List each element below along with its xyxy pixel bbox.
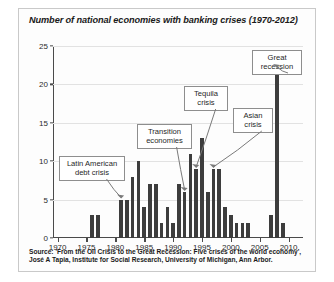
- source-line-2: José A Tapia, Institute for Social Resea…: [29, 256, 307, 265]
- x-tick-mark: [289, 238, 290, 242]
- plot-area: 0510152025 19701975198019851990199520002…: [53, 46, 303, 238]
- x-tick-mark: [144, 238, 145, 242]
- y-tick-label: 15: [39, 118, 48, 127]
- y-tick-label: 25: [39, 42, 48, 51]
- x-tick-mark: [173, 238, 174, 242]
- annotation-leader-line: [53, 46, 303, 238]
- source-line-1: Source: 'From the Oil Crisis to the Grea…: [29, 248, 307, 257]
- x-tick-mark: [231, 238, 232, 242]
- chart-figure: Number of national economies with bankin…: [18, 8, 316, 272]
- y-tick-label: 0: [44, 234, 48, 243]
- y-tick-label: 20: [39, 80, 48, 89]
- chart-title: Number of national economies with bankin…: [29, 15, 309, 25]
- x-tick-mark: [202, 238, 203, 242]
- x-tick-mark: [260, 238, 261, 242]
- y-tick-label: 5: [44, 195, 48, 204]
- x-tick-mark: [86, 238, 87, 242]
- x-tick-mark: [115, 238, 116, 242]
- x-tick-mark: [58, 238, 59, 242]
- source-note: Source: 'From the Oil Crisis to the Grea…: [29, 248, 307, 265]
- y-tick-label: 10: [39, 157, 48, 166]
